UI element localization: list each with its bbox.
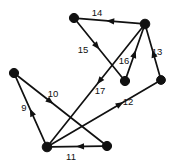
bottom-right-node: [102, 141, 111, 150]
top-left-node: [69, 13, 78, 22]
arrowhead-11: [76, 143, 84, 149]
edge-label-12: 12: [123, 96, 134, 107]
top-right-node: [140, 19, 150, 29]
bottom-left-node: [42, 142, 52, 152]
edge-label-10: 10: [48, 88, 59, 99]
edge-label-15: 15: [78, 44, 89, 55]
edge-label-11: 11: [66, 151, 76, 162]
arrowhead-16: [130, 50, 136, 59]
edge-label-16: 16: [119, 55, 130, 66]
right-node: [157, 76, 166, 85]
edge-label-13: 13: [152, 46, 163, 57]
graph-canvas: 14151613171291011: [0, 0, 178, 163]
left-node: [9, 68, 18, 77]
arrowheads-layer: [30, 18, 158, 149]
edges-layer: [15, 18, 160, 147]
edge-label-14: 14: [92, 7, 103, 18]
directed-graph-figure: 14151613171291011: [0, 0, 178, 163]
edge-label-17: 17: [95, 85, 106, 96]
edge-label-9: 9: [21, 102, 26, 113]
arrowhead-9: [30, 109, 36, 118]
middle-node: [120, 76, 129, 85]
